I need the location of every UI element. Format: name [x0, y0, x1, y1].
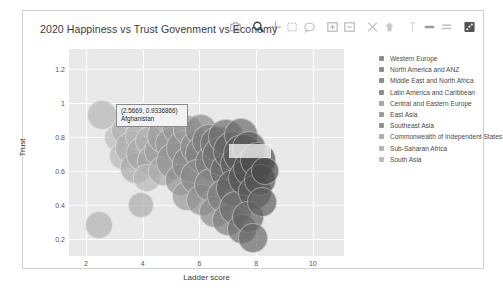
tooltip-country-name: Afghanistan — [121, 115, 183, 123]
legend-swatch-icon — [379, 134, 384, 139]
x-axis-label: Ladder score — [69, 273, 344, 282]
legend-swatch-icon — [379, 112, 384, 117]
x-axis-tick-label: 6 — [197, 260, 201, 267]
bubble-marker[interactable] — [128, 192, 154, 218]
y-axis-tick-label: 0.4 — [55, 202, 65, 209]
bubble-marker[interactable] — [238, 223, 268, 253]
legend-item[interactable]: Latin America and Caribbean — [379, 87, 483, 98]
legend-swatch-icon — [379, 78, 384, 83]
legend-swatch-icon — [379, 146, 384, 151]
camera-icon[interactable] — [228, 20, 243, 35]
y-axis-tick-label: 0.6 — [55, 168, 65, 175]
legend-swatch-icon — [379, 157, 384, 162]
lasso-icon[interactable] — [302, 20, 317, 35]
pan-icon[interactable] — [268, 20, 283, 35]
bubble-marker[interactable] — [251, 157, 279, 185]
autoscale-icon[interactable] — [365, 20, 380, 35]
legend-item[interactable]: Western Europe — [379, 53, 483, 64]
y-axis-tick-label: 1 — [61, 100, 65, 107]
x-axis-tick-label: 2 — [84, 260, 88, 267]
x-axis-ticks: 246810 — [69, 260, 344, 272]
zoom-icon[interactable] — [251, 20, 266, 35]
plotly-logo-icon[interactable] — [462, 20, 477, 35]
tooltip-coordinates: (2.5669, 0.9336866) — [121, 107, 183, 115]
legend-item[interactable]: South Asia — [379, 154, 483, 165]
y-axis-tick-label: 0.2 — [55, 236, 65, 243]
legend-item-label: Western Europe — [390, 55, 438, 62]
reset-axes-icon[interactable] — [382, 20, 397, 35]
legend-item[interactable]: Sub-Saharan Africa — [379, 143, 483, 154]
hover-closest-icon[interactable] — [439, 20, 454, 35]
bubble-marker[interactable] — [85, 211, 113, 239]
legend-item[interactable]: Central and Eastern Europe — [379, 98, 483, 109]
page-root: 2020 Happiness vs Trust Govenment vs Eco… — [0, 0, 503, 296]
legend-swatch-icon — [379, 67, 384, 72]
x-axis-tick-label: 10 — [309, 260, 317, 267]
legend-item-label: Commonwealth of Independent States — [390, 133, 502, 140]
zoom-out-icon[interactable] — [342, 20, 357, 35]
legend-item-label: Southeast Asia — [390, 122, 434, 129]
legend-item[interactable]: East Asia — [379, 109, 483, 120]
hover-tooltip: (2.5669, 0.9336866) Afghanistan — [116, 104, 188, 127]
legend-swatch-icon — [379, 90, 384, 95]
zoom-in-icon[interactable] — [325, 20, 340, 35]
tooltip-shadow — [229, 144, 271, 158]
legend-item-label: Sub-Saharan Africa — [390, 145, 447, 152]
legend-item[interactable]: Middle East and North Africa — [379, 75, 483, 86]
legend-swatch-icon — [379, 123, 384, 128]
chart-card: 2020 Happiness vs Trust Govenment vs Eco… — [22, 10, 484, 269]
legend-item-label: Middle East and North Africa — [390, 77, 474, 84]
y-axis-ticks: 0.20.40.60.811.2 — [37, 49, 65, 256]
legend-swatch-icon — [379, 56, 384, 61]
bubble-marker[interactable] — [247, 187, 277, 217]
x-axis-tick-label: 8 — [254, 260, 258, 267]
legend-item[interactable]: Southeast Asia — [379, 120, 483, 131]
x-axis-tick-label: 4 — [141, 260, 145, 267]
legend-item[interactable]: North America and ANZ — [379, 64, 483, 75]
legend-item-label: South Asia — [390, 156, 422, 163]
legend-item-label: North America and ANZ — [390, 66, 459, 73]
legend-item-label: Central and Eastern Europe — [390, 100, 472, 107]
zoom-box-icon[interactable] — [285, 20, 300, 35]
legend-item-label: Latin America and Caribbean — [390, 89, 475, 96]
spike-lines-icon[interactable] — [405, 20, 420, 35]
legend-item-label: East Asia — [390, 111, 418, 118]
plotly-modebar[interactable] — [228, 19, 477, 35]
y-axis-tick-label: 1.2 — [55, 66, 65, 73]
legend[interactable]: Western EuropeNorth America and ANZMiddl… — [379, 53, 483, 165]
y-axis-label: Trust — [18, 139, 27, 157]
legend-swatch-icon — [379, 101, 384, 106]
legend-item[interactable]: Commonwealth of Independent States — [379, 131, 483, 142]
plot-area[interactable] — [69, 49, 344, 256]
hover-compare-icon[interactable] — [422, 20, 437, 35]
bubble-series[interactable] — [69, 49, 344, 256]
y-axis-tick-label: 0.8 — [55, 134, 65, 141]
